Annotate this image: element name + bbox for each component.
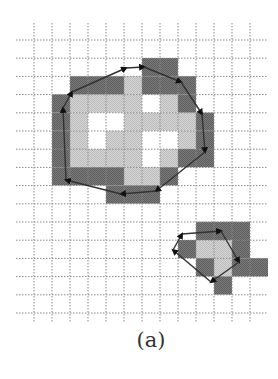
boundary-cell — [160, 58, 178, 76]
boundary-cell — [52, 167, 70, 185]
boundary-cell — [88, 167, 106, 185]
boundary-cell — [142, 76, 160, 94]
interior-cell — [88, 94, 106, 112]
boundary-cell — [196, 222, 214, 240]
interior-cell — [124, 131, 142, 149]
interior-cell — [124, 167, 142, 185]
contour-tracing-figure — [0, 0, 278, 379]
interior-cell — [124, 149, 142, 167]
interior-cell — [124, 76, 142, 94]
interior-cell — [106, 131, 124, 149]
interior-cell — [70, 149, 88, 167]
interior-cell — [160, 94, 178, 112]
interior-cell — [70, 94, 88, 112]
interior-cell — [142, 113, 160, 131]
boundary-cell — [178, 149, 196, 167]
boundary-cell — [196, 113, 214, 131]
boundary-cell — [52, 149, 70, 167]
figure-caption: (a) — [0, 328, 278, 352]
interior-cell — [160, 113, 178, 131]
boundary-cell — [52, 131, 70, 149]
boundary-cell — [106, 167, 124, 185]
interior-cell — [70, 131, 88, 149]
boundary-cell — [196, 258, 214, 276]
interior-cell — [196, 240, 214, 258]
boundary-cell — [160, 76, 178, 94]
boundary-cell — [106, 76, 124, 94]
interior-cell — [88, 149, 106, 167]
boundary-cell — [250, 258, 268, 276]
interior-cell — [124, 113, 142, 131]
large-blob-contour-arrow — [126, 67, 144, 68]
boundary-cell — [142, 185, 160, 203]
interior-cell — [70, 113, 88, 131]
boundary-cell — [88, 76, 106, 94]
interior-cell — [124, 94, 142, 112]
boundary-cell — [178, 94, 196, 112]
boundary-cell — [214, 276, 232, 294]
boundary-cell — [178, 240, 196, 258]
interior-cell — [178, 113, 196, 131]
interior-cell — [178, 131, 196, 149]
interior-cell — [142, 167, 160, 185]
boundary-cell — [232, 258, 250, 276]
boundary-cell — [52, 94, 70, 112]
boundary-cell — [124, 185, 142, 203]
boundary-cell — [232, 222, 250, 240]
boundary-cell — [52, 113, 70, 131]
interior-cell — [106, 94, 124, 112]
interior-cell — [160, 149, 178, 167]
interior-cell — [214, 240, 232, 258]
interior-cell — [106, 149, 124, 167]
